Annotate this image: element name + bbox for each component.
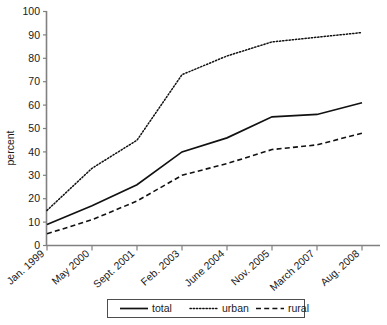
legend: totalurbanrural (108, 300, 310, 318)
y-tick-label: 60 (28, 99, 40, 111)
series-layer (47, 33, 362, 234)
legend-label-urban: urban (222, 302, 249, 314)
series-line-rural (47, 133, 362, 234)
chart-canvas: 0102030405060708090100 percent Jan. 1999… (0, 0, 387, 325)
y-tick-label: 30 (28, 169, 40, 181)
legend-label-total: total (152, 302, 172, 314)
y-tick-label: 100 (22, 5, 40, 17)
legend-label-rural: rural (288, 302, 309, 314)
x-tick-label: June 2004 (182, 247, 227, 289)
x-axis: Jan. 1999May 2000Sept. 2001Feb. 2003June… (4, 246, 380, 294)
x-tick-label: Jan. 1999 (4, 247, 46, 287)
y-tick-label: 80 (28, 52, 40, 64)
x-tick-label: Feb. 2003 (138, 247, 181, 288)
x-tick-label: March 2007 (267, 247, 316, 293)
x-tick-label: Sept. 2001 (91, 247, 137, 290)
line-chart: 0102030405060708090100 percent Jan. 1999… (0, 0, 387, 325)
y-tick-label: 70 (28, 75, 40, 87)
series-line-urban (47, 33, 362, 211)
x-tick-label: Nov. 2005 (228, 247, 271, 288)
x-tick-label: May 2000 (49, 247, 91, 287)
x-tick-label: Aug. 2008 (318, 247, 362, 288)
y-axis-tick-labels: 0102030405060708090100 (22, 5, 40, 251)
y-tick-label: 40 (28, 146, 40, 158)
series-line-total (47, 103, 362, 225)
y-tick-label: 50 (28, 122, 40, 134)
x-axis-tick-labels: Jan. 1999May 2000Sept. 2001Feb. 2003June… (4, 247, 361, 293)
y-axis-title: percent (4, 130, 16, 165)
y-axis: 0102030405060708090100 percent (4, 5, 47, 251)
y-tick-label: 10 (28, 216, 40, 228)
y-tick-label: 90 (28, 29, 40, 41)
y-tick-label: 20 (28, 192, 40, 204)
